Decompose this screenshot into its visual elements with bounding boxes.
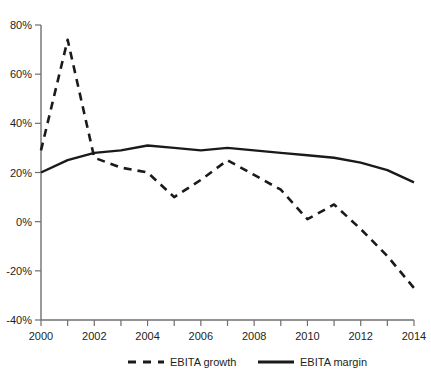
x-tick-label: 2008 — [242, 330, 266, 342]
x-tick-label: 2012 — [348, 330, 372, 342]
x-tick-label: 2014 — [402, 330, 426, 342]
series-line-ebita-margin — [41, 145, 414, 182]
y-tick-label: 20% — [10, 167, 32, 179]
y-tick-label: 80% — [10, 19, 32, 31]
chart-legend: EBITA growthEBITA margin — [128, 356, 367, 368]
x-tick-label: 2006 — [189, 330, 213, 342]
series-layer — [41, 40, 414, 288]
x-axis-ticks — [41, 320, 414, 326]
y-tick-label: 40% — [10, 117, 32, 129]
legend-label-ebita-margin: EBITA margin — [300, 356, 367, 368]
x-tick-label: 2010 — [295, 330, 319, 342]
y-tick-label: 0% — [16, 216, 32, 228]
y-axis-ticks — [35, 25, 41, 320]
y-tick-label: -40% — [6, 314, 32, 326]
x-tick-label: 2002 — [82, 330, 106, 342]
y-tick-label: -20% — [6, 265, 32, 277]
legend-label-ebita-growth: EBITA growth — [170, 356, 236, 368]
y-tick-label: 60% — [10, 68, 32, 80]
x-axis-tick-labels: 20002002200420062008201020122014 — [29, 330, 426, 342]
x-tick-label: 2000 — [29, 330, 53, 342]
y-axis-tick-labels: 80%60%40%20%0%-20%-40% — [6, 19, 32, 326]
x-tick-label: 2004 — [135, 330, 159, 342]
line-chart: 80%60%40%20%0%-20%-40% 20002002200420062… — [0, 0, 431, 377]
chart-container: 80%60%40%20%0%-20%-40% 20002002200420062… — [0, 0, 431, 377]
series-line-ebita-growth — [41, 40, 414, 288]
